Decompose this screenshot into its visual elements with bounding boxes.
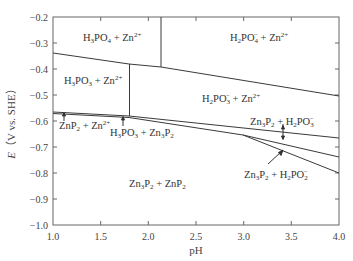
region-h3po4-zn: H3PO4 + Zn2+ (83, 31, 141, 45)
region-zn3p2-znp2: Zn3P2 + ZnP2 (129, 178, 186, 191)
x-tick-4.0: 4.0 (333, 231, 346, 242)
x-tick-labels: 1.0 1.5 2.0 2.5 3.0 3.5 4.0 (47, 231, 346, 242)
region-zn3p2-h2po3: Zn3P2 + H2PO3− (250, 115, 314, 129)
y-tick: −1.0 (30, 220, 48, 231)
region-h3po3-zn3p2: H3PO3 + Zn3P2 (110, 127, 174, 140)
x-tick-2.0: 2.0 (142, 231, 155, 242)
y-tick: −0.9 (30, 194, 48, 205)
region-zn3p2-h2po2: Zn3P2 + H2PO2− (244, 168, 308, 182)
region-h2po3-zn: H2PO3− + Zn2+ (202, 92, 260, 106)
x-tick-3.0: 3.0 (237, 231, 250, 242)
y-axis-title: E（V vs. SHE） (5, 83, 17, 159)
y-tick: −0.2 (30, 12, 48, 23)
x-tick-1.5: 1.5 (94, 231, 107, 242)
x-tick-3.5: 3.5 (285, 231, 298, 242)
y-tick: −0.7 (30, 142, 48, 153)
arrow-head-icon (279, 150, 284, 156)
region-h3po3-zn: H3PO3 + Zn2+ (64, 74, 122, 88)
x-tick-1.0: 1.0 (47, 231, 60, 242)
arrow-head-icon (282, 136, 285, 140)
y-tick: −0.4 (30, 64, 48, 75)
y-tick: −0.6 (30, 116, 48, 127)
y-tick: −0.5 (30, 90, 48, 101)
y-tick: −0.8 (30, 168, 48, 179)
x-tick-2.5: 2.5 (190, 231, 203, 242)
y-tick: −0.3 (30, 38, 48, 49)
pourbaix-diagram: 1.0 1.5 2.0 2.5 3.0 3.5 4.0 pH −0.2 −0.3… (0, 0, 353, 261)
svg-text:E（V vs. SHE）: E（V vs. SHE） (5, 83, 17, 159)
y-tick-labels: −0.2 −0.3 −0.4 −0.5 −0.6 −0.7 −0.8 −0.9 … (30, 12, 48, 231)
y-axis-unit: （V vs. SHE） (5, 83, 17, 152)
region-znp2-zn: ZnP2 + Zn2+ (59, 119, 110, 133)
x-axis-title: pH (189, 244, 203, 256)
region-h2po4-zn: H2PO4− + Zn2+ (230, 31, 288, 45)
